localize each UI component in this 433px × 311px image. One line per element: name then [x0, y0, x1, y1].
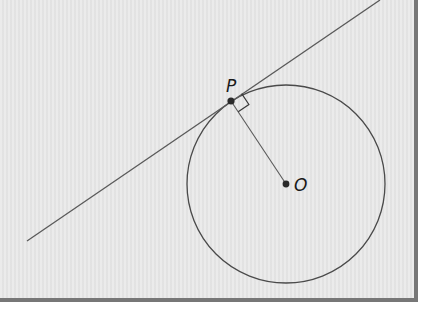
radius-op	[231, 101, 286, 184]
label-o: O	[294, 175, 307, 195]
diagram-canvas: P O	[0, 0, 433, 311]
point-p-dot	[227, 97, 234, 104]
point-o-dot	[283, 181, 290, 188]
label-p: P	[226, 76, 237, 96]
tangent-line	[27, 0, 380, 241]
